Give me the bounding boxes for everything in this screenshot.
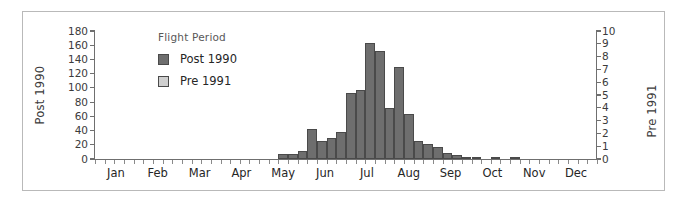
right-y-tick [597, 82, 601, 83]
x-tick [240, 160, 241, 164]
x-axis-month-label: Mar [177, 166, 223, 180]
right-y-tick [597, 133, 601, 134]
x-tick [346, 160, 347, 164]
left-y-tick-label: 160 [54, 40, 88, 50]
right-y-tick [597, 146, 601, 147]
x-tick [153, 160, 154, 164]
x-tick [105, 160, 106, 164]
x-tick [192, 160, 193, 164]
x-tick [114, 160, 115, 164]
x-tick [172, 160, 173, 164]
left-y-tick-label: 20 [54, 139, 88, 149]
left-y-tick-label: 40 [54, 125, 88, 135]
bar [394, 67, 404, 159]
x-tick [414, 160, 415, 164]
x-tick [394, 160, 395, 164]
legend-item-pre-1991: Pre 1991 [158, 74, 288, 88]
right-y-tick [597, 120, 601, 121]
left-y-tick-label: 80 [54, 97, 88, 107]
x-tick [491, 160, 492, 164]
right-y-tick-label: 5 [602, 90, 624, 100]
bar [288, 154, 298, 159]
x-axis-month-label: Apr [218, 166, 264, 180]
left-y-tick [90, 102, 94, 103]
chart-figure: Post 1990 Pre 1991 020406080100120140160… [0, 0, 690, 203]
x-tick [356, 160, 357, 164]
bar [385, 108, 395, 159]
left-y-tick-label: 0 [54, 154, 88, 164]
x-tick [201, 160, 202, 164]
x-tick [327, 160, 328, 164]
left-y-tick-label: 140 [54, 54, 88, 64]
x-tick [462, 160, 463, 164]
x-tick [230, 160, 231, 164]
bar [317, 141, 327, 159]
x-tick [298, 160, 299, 164]
x-tick [558, 160, 559, 164]
left-y-tick [90, 45, 94, 46]
x-tick [134, 160, 135, 164]
bar [278, 154, 288, 159]
legend: Flight Period Post 1990 Pre 1991 [158, 31, 288, 96]
bar [298, 151, 308, 159]
x-axis-month-label: Sep [428, 166, 474, 180]
left-y-tick [90, 30, 94, 31]
right-y-tick-label: 2 [602, 128, 624, 138]
x-tick [307, 160, 308, 164]
bar [423, 144, 433, 159]
legend-label-post-1990: Post 1990 [180, 52, 237, 66]
bar [336, 132, 346, 159]
right-y-tick [597, 107, 601, 108]
x-tick [443, 160, 444, 164]
x-tick [597, 160, 598, 164]
x-tick [375, 160, 376, 164]
x-tick [95, 160, 96, 164]
x-tick [211, 160, 212, 164]
bar [433, 147, 443, 159]
x-tick [143, 160, 144, 164]
x-axis-month-label: Feb [135, 166, 181, 180]
bar [346, 93, 356, 159]
bar [510, 157, 520, 159]
left-axis-title: Post 1990 [33, 47, 47, 143]
right-y-tick [597, 43, 601, 44]
left-y-tick-label: 180 [54, 26, 88, 36]
right-y-tick-label: 4 [602, 102, 624, 112]
bar [327, 138, 337, 159]
x-tick [317, 160, 318, 164]
x-axis-month-label: Jul [344, 166, 390, 180]
x-tick [182, 160, 183, 164]
left-y-tick [90, 59, 94, 60]
right-y-tick-label: 7 [602, 64, 624, 74]
left-y-tick [90, 158, 94, 159]
right-y-tick-label: 10 [602, 26, 624, 36]
bar [375, 51, 385, 159]
right-y-tick-label: 8 [602, 51, 624, 61]
left-y-tick-label: 120 [54, 68, 88, 78]
x-tick [578, 160, 579, 164]
x-tick [472, 160, 473, 164]
x-axis-month-label: Nov [511, 166, 557, 180]
legend-title: Flight Period [158, 31, 288, 43]
right-y-tick [597, 69, 601, 70]
bar [404, 114, 414, 160]
x-tick [510, 160, 511, 164]
right-y-tick-label: 3 [602, 115, 624, 125]
bar [462, 157, 472, 159]
x-tick [221, 160, 222, 164]
x-axis-month-label: May [260, 166, 306, 180]
x-tick [452, 160, 453, 164]
x-tick [385, 160, 386, 164]
bar [491, 157, 501, 159]
x-tick [500, 160, 501, 164]
bar [452, 155, 462, 159]
bar [307, 129, 317, 159]
x-tick [288, 160, 289, 164]
right-y-tick [597, 30, 601, 31]
x-axis-month-label: Jan [93, 166, 139, 180]
x-axis-month-label: Oct [469, 166, 515, 180]
left-y-tick-label: 100 [54, 82, 88, 92]
x-tick [163, 160, 164, 164]
x-tick [249, 160, 250, 164]
right-y-tick-label: 6 [602, 77, 624, 87]
